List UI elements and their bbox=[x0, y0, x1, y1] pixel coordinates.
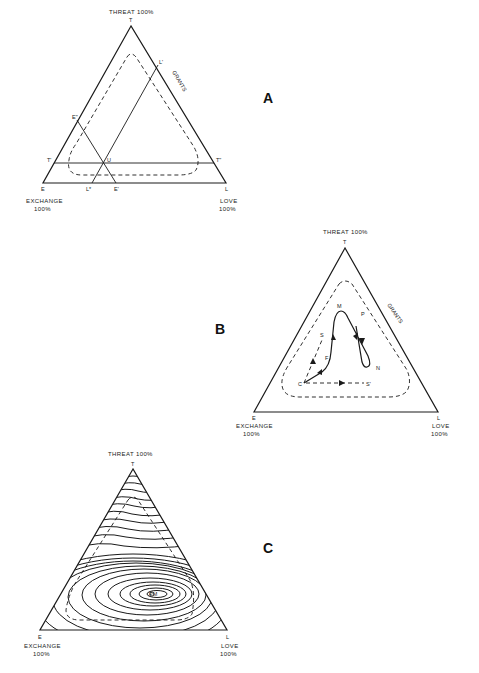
panel-b-point-s: S bbox=[320, 332, 324, 338]
panel-a-vertex-l: L bbox=[225, 186, 228, 192]
panel-a-line-e-double-e-prime bbox=[77, 120, 116, 183]
panel-a: THREAT 100% T GRANTS T' U T" E" L' L* E'… bbox=[26, 9, 273, 212]
panel-b-exchange-pct: 100% bbox=[243, 431, 260, 437]
panel-a-point-t-double: T" bbox=[216, 157, 221, 163]
panel-b-grants-region bbox=[282, 281, 410, 397]
panel-b-exchange-label: EXCHANGE bbox=[236, 423, 273, 429]
panel-a-love-label: LOVE bbox=[220, 198, 238, 204]
panel-a-exchange-label: EXCHANGE bbox=[26, 198, 63, 204]
panel-a-exchange-pct: 100% bbox=[34, 206, 51, 212]
panel-c-letter: C bbox=[263, 540, 273, 556]
panel-c-top-label: THREAT 100% bbox=[108, 451, 153, 457]
panel-b-love-label: LOVE bbox=[432, 423, 450, 429]
panel-b-point-s-prime: S' bbox=[366, 381, 371, 387]
panel-b-vertex-t: T bbox=[343, 239, 347, 245]
panel-c-love-pct: 100% bbox=[220, 651, 237, 657]
panel-b: THREAT 100% T GRANTS M P S F N C S' E L … bbox=[215, 229, 450, 437]
panel-a-point-e-prime: E' bbox=[114, 186, 119, 192]
panel-b-point-f: F bbox=[325, 355, 329, 361]
panel-b-vertex-l: L bbox=[437, 415, 440, 421]
panel-b-arrow-up-icon bbox=[353, 333, 358, 340]
panel-c-contours bbox=[11, 476, 255, 670]
panel-c-exchange-label: EXCHANGE bbox=[24, 643, 61, 649]
panel-a-love-pct: 100% bbox=[219, 206, 236, 212]
panel-a-top-label: THREAT 100% bbox=[109, 9, 154, 15]
panel-c-love-label: LOVE bbox=[221, 643, 239, 649]
panel-a-point-u: U bbox=[107, 157, 111, 163]
panel-a-triangle bbox=[43, 26, 226, 183]
panel-a-letter: A bbox=[263, 90, 273, 106]
panel-b-arrow-right-icon bbox=[339, 380, 345, 386]
panel-a-line-l-prime-l-star bbox=[92, 65, 158, 183]
panel-b-arrow-down-icon bbox=[331, 334, 336, 340]
panel-c-vertex-l: L bbox=[226, 634, 229, 640]
panel-a-point-t-prime: T' bbox=[47, 157, 51, 163]
panel-a-grants-label: GRANTS bbox=[171, 70, 188, 93]
panel-a-point-e-double: E" bbox=[72, 114, 78, 120]
panel-b-point-m: M bbox=[337, 303, 342, 309]
panel-b-triangle bbox=[254, 248, 438, 412]
panel-b-arrow-up-icon bbox=[310, 358, 316, 364]
panel-c-triangle bbox=[40, 469, 227, 630]
panel-c-exchange-pct: 100% bbox=[33, 651, 50, 657]
panel-b-trajectory bbox=[304, 311, 370, 383]
panel-b-letter: B bbox=[215, 321, 225, 337]
panel-c-vertex-e: E bbox=[38, 634, 42, 640]
panel-b-point-c: C bbox=[298, 381, 302, 387]
panel-a-vertex-e: E bbox=[41, 186, 45, 192]
panel-a-point-l-star: L* bbox=[86, 186, 92, 192]
panel-a-vertex-t: T bbox=[129, 17, 133, 23]
panel-c-peak-label: PM bbox=[149, 591, 158, 597]
panel-b-grants-label: GRANTS bbox=[386, 302, 404, 324]
panel-b-point-p: P bbox=[361, 311, 365, 317]
panel-b-top-label: THREAT 100% bbox=[323, 229, 368, 235]
panel-a-point-l-prime: L' bbox=[159, 59, 163, 65]
panel-c-vertex-t: T bbox=[131, 461, 135, 467]
panel-c: THREAT 100% T bbox=[11, 451, 273, 670]
figure-canvas: THREAT 100% T GRANTS T' U T" E" L' L* E'… bbox=[0, 0, 479, 673]
panel-b-love-pct: 100% bbox=[431, 431, 448, 437]
panel-b-point-n: N bbox=[376, 365, 380, 371]
panel-b-vertex-e: E bbox=[252, 415, 256, 421]
